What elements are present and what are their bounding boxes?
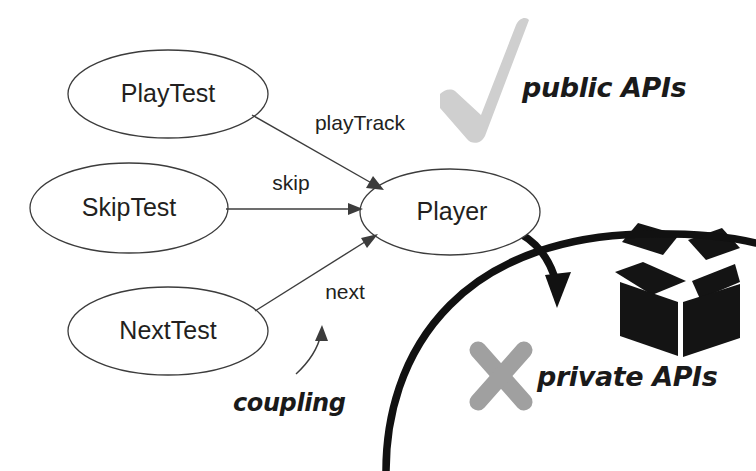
edge-skip-label: skip bbox=[272, 171, 309, 194]
edge-next: next bbox=[255, 234, 378, 311]
node-playtest[interactable]: PlayTest bbox=[68, 50, 268, 138]
coupling-pointer-arrow bbox=[296, 325, 328, 374]
edge-skip: skip bbox=[226, 171, 363, 215]
annotation-coupling: coupling bbox=[233, 389, 346, 417]
diagram-canvas: PlayTest SkipTest NextTest Player playTr… bbox=[0, 0, 756, 471]
node-player-label: Player bbox=[417, 197, 488, 225]
coupling-diagram: PlayTest SkipTest NextTest Player playTr… bbox=[0, 0, 756, 471]
annotation-public-apis: public APIs bbox=[521, 72, 687, 103]
encapsulation-boundary-curve bbox=[386, 234, 756, 471]
annotation-private-apis: private APIs bbox=[536, 361, 718, 392]
edge-next-arrowhead bbox=[361, 234, 378, 248]
x-mark-icon bbox=[478, 350, 524, 402]
edge-playtrack-arrowhead bbox=[366, 176, 384, 190]
node-playtest-label: PlayTest bbox=[121, 79, 216, 107]
node-player[interactable]: Player bbox=[360, 169, 540, 255]
node-skiptest[interactable]: SkipTest bbox=[30, 163, 228, 253]
node-nexttest-label: NextTest bbox=[119, 316, 216, 344]
node-skiptest-label: SkipTest bbox=[82, 193, 177, 221]
open-box-icon bbox=[615, 223, 740, 357]
node-nexttest[interactable]: NextTest bbox=[68, 287, 268, 375]
edge-playtrack-label: playTrack bbox=[315, 111, 406, 134]
edge-next-label: next bbox=[325, 280, 365, 303]
check-mark-icon bbox=[440, 18, 529, 143]
